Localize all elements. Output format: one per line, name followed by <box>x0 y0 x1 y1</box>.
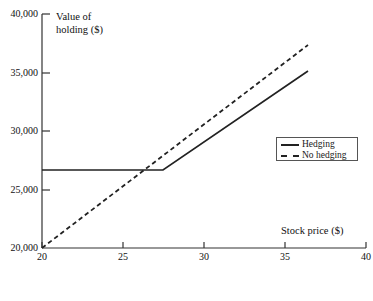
y-axis-title-line2: holding ($) <box>56 24 103 36</box>
legend-label-hedging: Hedging <box>302 139 335 149</box>
x-tick-label-30: 30 <box>189 251 219 262</box>
y-tick-label-40000: 40,000 <box>0 8 38 19</box>
y-tick-label-35000: 35,000 <box>0 67 38 78</box>
legend-swatch-solid-icon <box>281 141 299 148</box>
x-tick-label-25: 25 <box>108 251 138 262</box>
figure-caption: FIGURE 4-4 Value of Microsoft holding in… <box>0 262 373 301</box>
x-tick-label-20: 20 <box>27 251 57 262</box>
y-axis-title-line1: Value of <box>56 11 91 23</box>
y-tick-label-25000: 25,000 <box>0 184 38 195</box>
legend-swatch-dashed-icon <box>281 152 299 159</box>
legend-label-no-hedging: No hedging <box>302 150 347 160</box>
x-tick-label-40: 40 <box>351 251 373 262</box>
y-tick-label-30000: 30,000 <box>0 125 38 136</box>
legend-item-no-hedging: No hedging <box>281 150 347 161</box>
x-axis-title: Stock price ($) <box>281 225 343 237</box>
figure-4-4: 40,000 35,000 30,000 25,000 20,000 20 25… <box>0 0 373 301</box>
series-hedging <box>42 71 308 170</box>
chart-legend: Hedging No hedging <box>276 137 358 161</box>
legend-item-hedging: Hedging <box>281 139 335 150</box>
x-tick-label-35: 35 <box>270 251 300 262</box>
series-no-hedging <box>42 45 308 248</box>
